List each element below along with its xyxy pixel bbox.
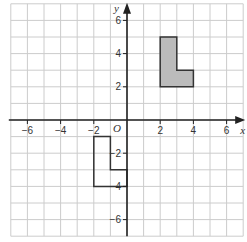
coordinate-grid: −6−4−2246642−2−4−6xyO xyxy=(0,0,247,242)
y-tick-label: −6 xyxy=(110,214,122,225)
x-tick-label: 6 xyxy=(224,125,230,136)
y-axis-label: y xyxy=(113,2,119,14)
x-tick-label: −6 xyxy=(22,125,34,136)
axis-labels: −6−4−2246642−2−4−6xyO xyxy=(22,2,246,225)
y-tick-label: 4 xyxy=(115,48,121,59)
x-tick-label: −2 xyxy=(88,125,100,136)
x-tick-label: −4 xyxy=(55,125,67,136)
x-tick-label: 4 xyxy=(191,125,197,136)
y-tick-label: 6 xyxy=(115,15,121,26)
y-axis-arrow-icon xyxy=(123,3,131,14)
y-tick-label: 2 xyxy=(115,81,121,92)
y-tick-label: −2 xyxy=(110,148,122,159)
y-tick-label: −4 xyxy=(110,181,122,192)
shaded-L-shape xyxy=(160,37,193,87)
x-axis-label: x xyxy=(239,124,245,136)
origin-label: O xyxy=(113,122,121,134)
x-tick-label: 2 xyxy=(157,125,163,136)
